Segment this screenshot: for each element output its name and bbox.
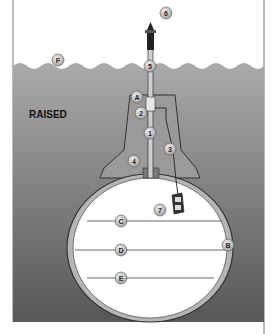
svg-text:A: A: [134, 94, 139, 101]
callout-b: B: [222, 239, 234, 251]
callout-e: E: [115, 272, 127, 284]
svg-text:3: 3: [168, 146, 172, 153]
svg-text:D: D: [118, 247, 123, 254]
callout-6: 6: [160, 7, 172, 19]
callout-3: 3: [164, 143, 176, 155]
raised-state-diagram: RAISED 6 F 5 A 2 1 3 4 7 C B D E: [0, 0, 276, 334]
antenna-tip: [147, 22, 154, 30]
callout-f: F: [52, 54, 64, 66]
callout-c: C: [115, 215, 127, 227]
svg-text:E: E: [119, 275, 124, 282]
antenna-collar: [145, 30, 156, 33]
svg-text:2: 2: [139, 110, 143, 117]
svg-text:B: B: [225, 242, 230, 249]
callout-d: D: [115, 244, 127, 256]
antenna-head: [147, 32, 154, 50]
callout-4: 4: [128, 155, 140, 167]
callout-1: 1: [144, 127, 156, 139]
callout-2: 2: [135, 107, 147, 119]
svg-text:5: 5: [148, 63, 152, 70]
svg-text:F: F: [56, 57, 61, 64]
svg-text:C: C: [118, 218, 123, 225]
svg-text:4: 4: [132, 158, 136, 165]
hull-interior: [73, 178, 227, 318]
equipment-cabinet: [172, 193, 184, 214]
status-label: RAISED: [29, 109, 67, 120]
svg-text:6: 6: [164, 10, 168, 17]
callout-a: A: [131, 91, 143, 103]
callout-7: 7: [154, 204, 166, 216]
mast-bracket: [146, 97, 155, 111]
svg-text:1: 1: [148, 130, 152, 137]
svg-text:7: 7: [158, 207, 162, 214]
callout-5: 5: [144, 60, 156, 72]
